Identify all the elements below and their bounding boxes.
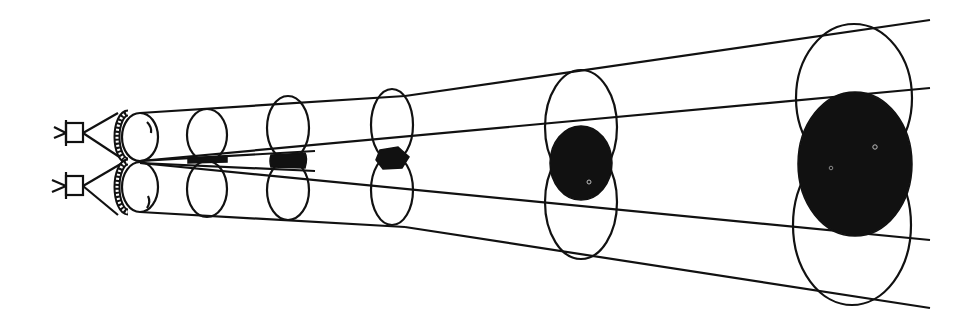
- outer-bottom-line: [140, 212, 405, 227]
- camera-top-icon: [54, 113, 124, 160]
- lens-top-icon: [117, 113, 158, 161]
- camera-bottom-icon: [52, 162, 124, 215]
- section-2: [267, 96, 309, 220]
- section-5: [793, 24, 912, 305]
- lens-bottom-icon: [117, 162, 158, 212]
- section-1: [187, 109, 227, 217]
- stereo-overlap-diagram: [0, 0, 955, 328]
- section-4: [545, 70, 617, 259]
- section-3: [371, 89, 413, 225]
